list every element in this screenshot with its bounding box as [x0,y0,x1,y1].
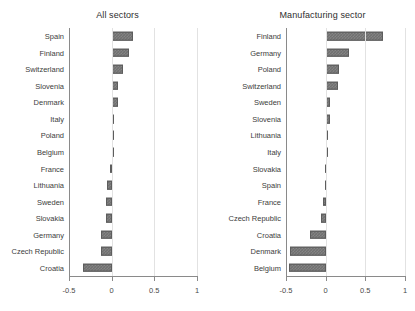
category-label: Slovakia [253,164,281,173]
bar-row: Finland [69,45,197,62]
gridline [197,28,198,276]
gridline [365,28,366,276]
category-label: Germany [250,48,281,57]
bar [310,230,326,239]
category-label: Slovakia [36,214,64,223]
category-label: Belgium [37,147,64,156]
category-label: Poland [258,65,281,74]
x-tick [197,276,198,281]
x-tick [405,276,406,281]
category-label: Croatia [40,263,64,272]
bar-row: Croatia [286,226,405,243]
category-label: Germany [33,230,64,239]
bar-row: Germany [286,45,405,62]
x-tick-label: -0.5 [280,286,293,295]
category-label: Denmark [251,247,281,256]
bar-row: Slovakia [69,210,197,227]
bar-row: Lithuania [286,127,405,144]
gridline [405,28,406,276]
bar-row: Slovakia [286,160,405,177]
x-axis-line [69,276,197,277]
bar-row: France [69,160,197,177]
bar-row: Switzerland [69,61,197,78]
bars-all-sectors: SpainFinlandSwitzerlandSloveniaDenmarkIt… [69,28,197,276]
x-tick [326,276,327,281]
bar-row: Spain [286,177,405,194]
x-tick-label: 0.5 [149,286,159,295]
category-label: Lithuania [251,131,281,140]
bar-row: Slovenia [286,111,405,128]
x-tick-label: 0.5 [360,286,370,295]
x-tick [154,276,155,281]
bar [112,32,133,41]
bar [326,65,339,74]
category-label: Finland [39,48,64,57]
category-label: France [258,197,281,206]
category-label: Lithuania [34,181,64,190]
x-tick-label: 0 [110,286,114,295]
bar-row: Czech Republic [286,210,405,227]
plot-area-manufacturing-sector: FinlandGermanyPolandSwitzerlandSwedenSlo… [286,28,405,276]
bar-row: Italy [69,111,197,128]
x-tick [365,276,366,281]
bar [326,82,338,91]
bar-row: Germany [69,226,197,243]
category-label: Spain [45,32,64,41]
bar [112,65,123,74]
bar-row: Belgium [286,259,405,276]
bar-row: Finland [286,28,405,45]
category-label: Croatia [257,230,281,239]
bar-row: Italy [286,144,405,161]
x-tick [112,276,113,281]
bars-manufacturing-sector: FinlandGermanyPolandSwitzerlandSwedenSlo… [286,28,405,276]
bar-row: Sweden [286,94,405,111]
gridline [326,28,327,276]
bar-row: Denmark [69,94,197,111]
category-label: Sweden [254,98,281,107]
bar [101,247,112,256]
bar [83,263,112,272]
bar-row: Lithuania [69,177,197,194]
bar-row: France [286,193,405,210]
bar [326,32,383,41]
gridline [112,28,113,276]
bar-row: Switzerland [286,78,405,95]
bar-row: Czech Republic [69,243,197,260]
category-label: Finland [256,32,281,41]
plot-area-all-sectors: SpainFinlandSwitzerlandSloveniaDenmarkIt… [69,28,197,276]
bar-row: Sweden [69,193,197,210]
x-tick-label: 0 [324,286,328,295]
category-label: Italy [50,114,64,123]
panel-title-all-sectors: All sectors [0,10,207,20]
bar-row: Belgium [69,144,197,161]
category-label: France [41,164,64,173]
bar-row: Slovenia [69,78,197,95]
x-tick-label: -0.5 [63,286,76,295]
category-label: Switzerland [242,81,281,90]
category-label: Czech Republic [228,214,281,223]
panel-manufacturing-sector: Manufacturing sector FinlandGermanyPolan… [208,0,415,311]
x-tick [286,276,287,281]
bar [101,230,111,239]
bar-row: Croatia [69,259,197,276]
category-label: Belgium [254,263,281,272]
bar-row: Poland [69,127,197,144]
category-label: Czech Republic [11,247,64,256]
x-axis-line [286,276,405,277]
category-label: Italy [267,147,281,156]
category-label: Slovenia [252,114,281,123]
category-label: Spain [262,181,281,190]
bar [290,247,326,256]
bar-row: Denmark [286,243,405,260]
gridline [154,28,155,276]
category-label: Poland [41,131,64,140]
bar [326,49,350,58]
bar [112,49,129,58]
x-tick-label: 1 [195,286,199,295]
category-label: Denmark [34,98,64,107]
bar-row: Poland [286,61,405,78]
bar [289,263,325,272]
figure: All sectors SpainFinlandSwitzerlandSlove… [0,0,415,311]
bar-row: Spain [69,28,197,45]
category-label: Sweden [37,197,64,206]
